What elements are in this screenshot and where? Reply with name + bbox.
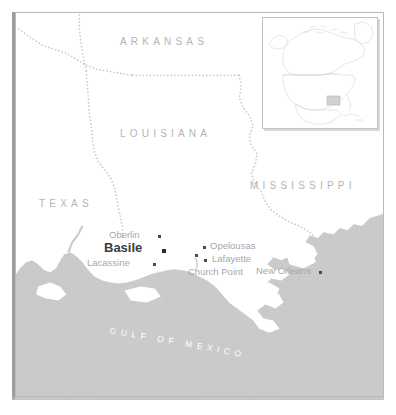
city-dot-basile xyxy=(162,249,166,253)
city-label-lacassine: Lacassine xyxy=(87,257,130,268)
city-dot-oberlin xyxy=(158,235,161,238)
state-label-louisiana: LOUISIANA xyxy=(120,128,211,139)
inset-map-north-america xyxy=(262,17,378,129)
city-label-opelousas: Opelousas xyxy=(210,240,255,251)
map-frame: GULF OF MEXICO ARKANSAS LOUISIANA MISSIS… xyxy=(15,12,384,397)
state-label-texas: TEXAS xyxy=(39,198,93,209)
state-label-arkansas: ARKANSAS xyxy=(120,36,208,47)
city-label-oberlin: Oberlin xyxy=(109,229,140,240)
city-dot-lacassine xyxy=(153,263,156,266)
city-dot-opelousas xyxy=(203,246,206,249)
city-label-basile: Basile xyxy=(104,240,142,255)
city-label-new-orleans: New Orleans xyxy=(256,265,311,276)
inset-geometry xyxy=(263,18,377,128)
inset-highlight-louisiana xyxy=(327,96,340,105)
state-label-mississippi: MISSISSIPPI xyxy=(250,180,356,191)
map-screenshot: GULF OF MEXICO ARKANSAS LOUISIANA MISSIS… xyxy=(0,0,396,415)
city-label-lafayette: Lafayette xyxy=(212,253,251,264)
church-point-leader-line xyxy=(188,256,212,270)
city-dot-new-orleans xyxy=(319,271,322,274)
inset-background xyxy=(263,18,377,128)
